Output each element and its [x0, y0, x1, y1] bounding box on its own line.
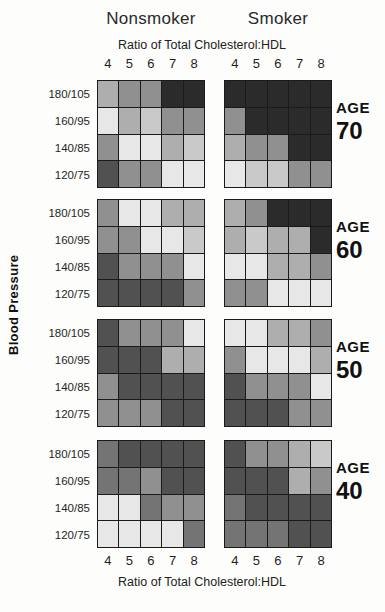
heatmap-cell-age40_s-r1c3 — [289, 468, 309, 494]
heatmap-cell-age50_ns-r1c0 — [98, 347, 118, 373]
heatmap-cell-age70_s-r0c2 — [268, 81, 288, 107]
heatmap-cell-age70_s-r1c1 — [246, 108, 266, 134]
heatmap-cell-age60_s-r3c2 — [268, 280, 288, 306]
heatmap-cell-age50_s-r2c1 — [246, 374, 266, 400]
heatmap-cell-age50_ns-r2c4 — [184, 374, 204, 400]
age-50-block: 180/105160/95140/85120/75 AGE 50 — [0, 319, 385, 427]
heatmap-cell-age60_ns-r1c0 — [98, 227, 118, 253]
age-number: 50 — [336, 357, 363, 383]
heatmap-cell-age60_ns-r0c1 — [119, 200, 139, 226]
heatmap-cell-age50_ns-r3c0 — [98, 400, 118, 426]
heatmap-cell-age60_s-r1c1 — [246, 227, 266, 253]
heatmap-cell-age50_s-r0c1 — [246, 320, 266, 346]
heatmap-cell-age70_s-r2c2 — [268, 135, 288, 161]
heatmap-cell-age70_s-r3c4 — [311, 161, 331, 187]
heatmap-cell-age40_ns-r0c2 — [141, 441, 161, 467]
heatmap-cell-age50_ns-r1c3 — [162, 347, 182, 373]
heatmap-cell-age60_s-r1c4 — [311, 227, 331, 253]
heatmap-cell-age50_ns-r1c4 — [184, 347, 204, 373]
heatmap-cell-age60_ns-r2c0 — [98, 254, 118, 280]
heatmap-cell-age50_s-r1c4 — [311, 347, 331, 373]
heatmap-cell-age60_ns-r0c0 — [98, 200, 118, 226]
ratio-tick: 5 — [119, 553, 141, 568]
heatmap-cell-age50_ns-r3c4 — [184, 400, 204, 426]
heatmap-cell-age70_ns-r2c0 — [98, 135, 118, 161]
heatmap-cell-age40_s-r1c0 — [225, 468, 245, 494]
bp-label: 180/105 — [0, 199, 90, 226]
heatmap-cell-age60_s-r2c1 — [246, 254, 266, 280]
heatmap-cell-age70_ns-r0c0 — [98, 81, 118, 107]
heatmap-cell-age50_ns-r3c2 — [141, 400, 161, 426]
heatmap-cell-age40_s-r3c3 — [289, 521, 309, 547]
heatmap-cell-age40_ns-r3c4 — [184, 521, 204, 547]
age-word: AGE — [336, 217, 370, 237]
age-word: AGE — [336, 337, 370, 357]
heatmap-cell-age40_s-r3c0 — [225, 521, 245, 547]
heatmap-cell-age50_s-r3c2 — [268, 400, 288, 426]
heatmap-cell-age50_s-r3c0 — [225, 400, 245, 426]
heatmap-cell-age70_ns-r1c3 — [162, 108, 182, 134]
heatmap-cell-age50_s-r2c0 — [225, 374, 245, 400]
heatmap-cell-age40_ns-r2c0 — [98, 495, 118, 521]
heatmap-cell-age50_s-r0c2 — [268, 320, 288, 346]
heatmap-cell-age50_ns-r3c1 — [119, 400, 139, 426]
bp-label: 120/75 — [0, 400, 90, 427]
heatmap-cell-age60_ns-r1c1 — [119, 227, 139, 253]
heatmap-cell-age70_ns-r1c1 — [119, 108, 139, 134]
ratio-tick: 8 — [310, 56, 332, 71]
heatmap-cell-age60_s-r3c3 — [289, 280, 309, 306]
heatmap-cell-age70_s-r2c4 — [311, 135, 331, 161]
bp-label: 120/75 — [0, 161, 90, 188]
heatmap-age70-smoker — [224, 80, 332, 188]
heatmap-cell-age60_ns-r0c2 — [141, 200, 161, 226]
ratio-tick: 4 — [97, 553, 119, 568]
heatmap-cell-age40_s-r3c1 — [246, 521, 266, 547]
bp-label: 120/75 — [0, 521, 90, 548]
heatmap-cell-age60_ns-r1c2 — [141, 227, 161, 253]
heatmap-cell-age60_ns-r2c3 — [162, 254, 182, 280]
heatmap-cell-age40_ns-r1c0 — [98, 468, 118, 494]
heatmap-cell-age40_s-r3c2 — [268, 521, 288, 547]
heatmap-cell-age50_s-r1c3 — [289, 347, 309, 373]
ratio-tick: 6 — [140, 553, 162, 568]
heatmap-cell-age40_s-r0c3 — [289, 441, 309, 467]
top-ticks-nonsmoker: 45678 — [97, 56, 205, 71]
heatmap-age50-nonsmoker — [97, 319, 205, 427]
heatmap-cell-age50_ns-r2c3 — [162, 374, 182, 400]
heatmap-age40-smoker — [224, 440, 332, 548]
heatmap-cell-age70_ns-r2c1 — [119, 135, 139, 161]
heatmap-cell-age70_s-r1c0 — [225, 108, 245, 134]
heatmap-cell-age60_ns-r2c2 — [141, 254, 161, 280]
heatmap-age60-smoker — [224, 199, 332, 307]
heatmap-cell-age70_s-r2c0 — [225, 135, 245, 161]
heatmap-cell-age70_ns-r2c2 — [141, 135, 161, 161]
heatmap-cell-age40_s-r1c1 — [246, 468, 266, 494]
age-word: AGE — [336, 98, 370, 118]
heatmap-cell-age70_s-r0c0 — [225, 81, 245, 107]
heatmap-cell-age40_s-r0c1 — [246, 441, 266, 467]
ratio-tick: 4 — [224, 56, 246, 71]
heatmap-cell-age60_ns-r1c4 — [184, 227, 204, 253]
heatmap-cell-age70_ns-r1c2 — [141, 108, 161, 134]
bottom-axis-label: Ratio of Total Cholesterol:HDL — [77, 575, 327, 590]
heatmap-cell-age50_ns-r0c0 — [98, 320, 118, 346]
heatmap-cell-age40_s-r2c1 — [246, 495, 266, 521]
heatmap-cell-age40_ns-r3c3 — [162, 521, 182, 547]
heatmap-cell-age70_ns-r0c3 — [162, 81, 182, 107]
bp-label: 160/95 — [0, 107, 90, 134]
heatmap-cell-age70_s-r0c4 — [311, 81, 331, 107]
ratio-tick: 7 — [162, 56, 184, 71]
heatmap-cell-age50_ns-r0c2 — [141, 320, 161, 346]
heatmap-cell-age60_ns-r3c1 — [119, 280, 139, 306]
heatmap-cell-age60_ns-r0c4 — [184, 200, 204, 226]
heatmap-cell-age60_s-r0c1 — [246, 200, 266, 226]
heatmap-cell-age70_s-r0c1 — [246, 81, 266, 107]
heatmap-cell-age50_s-r1c0 — [225, 347, 245, 373]
heatmap-cell-age70_s-r1c3 — [289, 108, 309, 134]
heatmap-cell-age40_s-r1c4 — [311, 468, 331, 494]
heatmap-cell-age70_ns-r3c2 — [141, 161, 161, 187]
ratio-tick: 8 — [183, 553, 205, 568]
heatmap-cell-age50_s-r0c4 — [311, 320, 331, 346]
age-word: AGE — [336, 458, 370, 478]
age-50-tag: AGE 50 — [336, 337, 385, 409]
